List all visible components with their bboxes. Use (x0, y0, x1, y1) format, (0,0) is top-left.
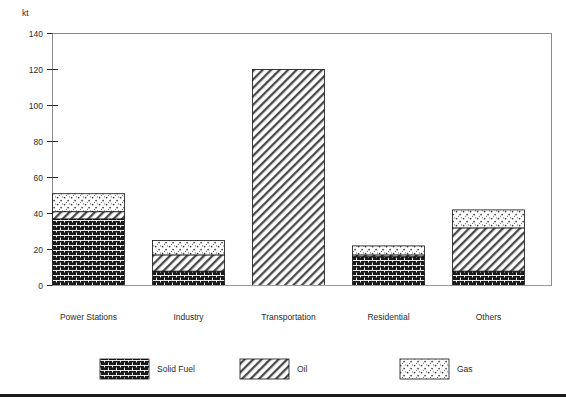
y-tick-20: 20 (34, 245, 44, 255)
bar-group-transportation[interactable] (253, 70, 325, 286)
bar-group-industry[interactable] (153, 241, 225, 286)
y-tick-40: 40 (34, 209, 44, 219)
bar-segment-gas[interactable] (353, 246, 425, 255)
x-label-power-stations: Power Stations (60, 312, 117, 322)
legend-label-gas: Gas (457, 364, 473, 374)
y-tick-80: 80 (34, 137, 44, 147)
legend-label-solid-fuel: Solid Fuel (157, 364, 195, 374)
bar-segment-oil[interactable] (53, 212, 125, 219)
bar-segment-gas[interactable] (53, 194, 125, 212)
legend-swatch-oil (240, 359, 289, 379)
legend-swatch-solid-fuel (100, 359, 149, 379)
legend-item-solid-fuel[interactable]: Solid Fuel (100, 359, 195, 379)
chart-legend: Solid Fuel Oil Gas (100, 359, 473, 379)
stacked-bar-chart: kt 140 120 100 80 60 40 20 0 (0, 0, 566, 402)
bar-segment-solid-fuel[interactable] (353, 257, 425, 286)
bar-group-power-stations[interactable] (53, 194, 125, 286)
bar-segment-solid-fuel[interactable] (53, 219, 125, 286)
bar-segment-oil[interactable] (453, 228, 525, 271)
bar-segment-solid-fuel[interactable] (153, 271, 225, 285)
bar-segment-oil[interactable] (253, 70, 325, 286)
y-tick-100: 100 (29, 101, 43, 111)
x-axis-category-labels: Power Stations Industry Transportation R… (60, 312, 501, 322)
bar-group-residential[interactable] (353, 246, 425, 286)
legend-label-oil: Oil (297, 364, 308, 374)
bar-segment-oil[interactable] (153, 255, 225, 271)
bar-segment-solid-fuel[interactable] (453, 271, 525, 285)
bar-segment-gas[interactable] (453, 210, 525, 228)
legend-swatch-gas (400, 359, 449, 379)
x-label-residential: Residential (367, 312, 409, 322)
x-label-transportation: Transportation (261, 312, 316, 322)
legend-item-oil[interactable]: Oil (240, 359, 308, 379)
y-tick-140: 140 (29, 29, 43, 39)
y-tick-60: 60 (34, 173, 44, 183)
x-label-others: Others (476, 312, 502, 322)
legend-item-gas[interactable]: Gas (400, 359, 473, 379)
y-tick-0: 0 (38, 281, 43, 291)
bar-segment-gas[interactable] (153, 241, 225, 255)
x-label-industry: Industry (173, 312, 204, 322)
y-tick-120: 120 (29, 65, 43, 75)
bar-group-others[interactable] (453, 210, 525, 286)
y-axis-tick-labels: 140 120 100 80 60 40 20 0 (29, 29, 43, 291)
y-axis-unit-label: kt (22, 8, 29, 18)
